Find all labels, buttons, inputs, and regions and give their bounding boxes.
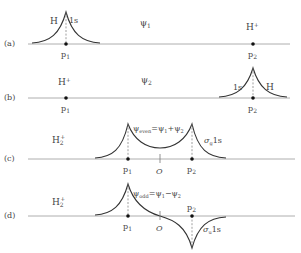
psi-odd-equation: ψodd=ψ1−ψ2 — [133, 189, 181, 199]
panel-b: (b) H+ ψ2 1s H p1 p2 — [4, 68, 290, 114]
p2-label: p2 — [248, 104, 257, 114]
p2-label: p2 — [248, 50, 257, 60]
lcao-diagram: (a) H 1s ψ1 H+ p1 p2 (b) H+ ψ2 1s H p1 p… — [0, 0, 301, 253]
p1-label: p1 — [61, 104, 70, 114]
psi-even-equation: ψeven=ψ1+ψ2 — [133, 124, 184, 134]
p1-label: p1 — [61, 50, 70, 60]
H-plus-label: H+ — [246, 21, 259, 32]
point-p2 — [190, 214, 194, 218]
panel-d: (d) H2+ ψodd=ψ1−ψ2 σu1s p1 O p2 — [4, 184, 295, 248]
atom-H-label: H — [50, 16, 58, 26]
point-p2 — [190, 157, 194, 161]
origin-O-label: O — [156, 167, 163, 176]
point-p1 — [126, 157, 130, 161]
sigma-g-1s-label: σg1s — [204, 136, 222, 147]
row-label-a: (a) — [4, 39, 15, 48]
psi2-label: ψ2 — [141, 75, 152, 86]
panel-c: (c) H2+ ψeven=ψ1+ψ2 σg1s p1 O p2 — [4, 124, 295, 176]
H-plus-label: H+ — [58, 76, 71, 87]
point-p2 — [251, 42, 255, 46]
point-p1 — [64, 96, 68, 100]
H2-plus-label: H2+ — [52, 195, 65, 208]
p1-label: p1 — [123, 165, 132, 175]
point-p1 — [126, 214, 130, 218]
H2-plus-label: H2+ — [52, 133, 65, 146]
origin-O-label: O — [156, 224, 163, 233]
point-p2 — [251, 96, 255, 100]
diagram-canvas: (a) H 1s ψ1 H+ p1 p2 (b) H+ ψ2 1s H p1 p… — [0, 0, 301, 253]
atom-H-label: H — [266, 82, 274, 92]
row-label-b: (b) — [4, 93, 15, 102]
row-label-c: (c) — [4, 154, 15, 163]
point-p1 — [64, 42, 68, 46]
orbital-1s-label: 1s — [233, 83, 242, 92]
row-label-d: (d) — [4, 211, 15, 220]
panel-a: (a) H 1s ψ1 H+ p1 p2 — [4, 12, 290, 60]
p2-label: p2 — [187, 203, 196, 213]
psi1-label: ψ1 — [140, 18, 151, 29]
sigma-u-1s-label: σu1s — [203, 225, 221, 235]
p1-label: p1 — [123, 222, 132, 232]
p2-label: p2 — [187, 165, 196, 175]
orbital-1s-label: 1s — [69, 16, 78, 25]
